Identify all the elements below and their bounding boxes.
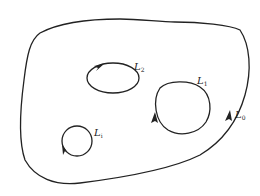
outer-contour-L0	[20, 19, 249, 184]
arrow-icon-L0	[225, 110, 232, 121]
label-L2: L2	[134, 62, 144, 73]
contour-L1	[156, 82, 210, 134]
contour-L2	[87, 63, 139, 93]
contour-diagram	[0, 0, 260, 196]
label-L0: L0	[235, 110, 245, 121]
label-L1: L1	[197, 76, 207, 87]
arrow-icon-Li	[62, 144, 68, 155]
label-Li: Li	[94, 128, 103, 139]
